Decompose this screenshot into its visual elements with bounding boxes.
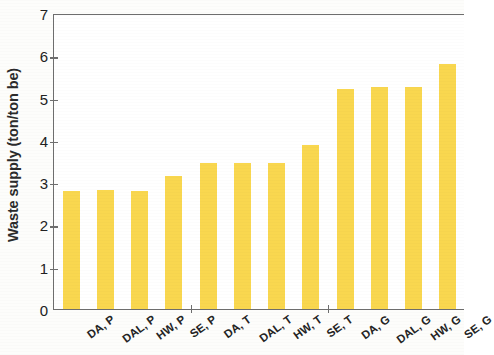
y-tick-label: 1: [26, 259, 48, 276]
bar: [200, 163, 217, 309]
bar: [371, 87, 388, 309]
y-tick-label: 2: [26, 217, 48, 234]
x-tick-label: SE, P: [187, 313, 218, 340]
x-axis-tick-labels: DA, PDAL, PHW, PSE, PDA, TDAL, THW, TSE,…: [0, 313, 464, 355]
x-tick-label: DA, T: [222, 313, 253, 340]
bar: [302, 145, 319, 309]
x-tick-label: SE, G: [462, 313, 494, 341]
y-tick-label: 7: [26, 6, 48, 23]
x-tick-label: DAL, G: [395, 313, 434, 346]
y-tick-label: 3: [26, 175, 48, 192]
x-tick-label: SE, T: [324, 313, 354, 340]
y-tick-mark: [50, 269, 58, 270]
y-axis-tick-labels: 76543210: [26, 0, 48, 355]
y-tick-mark: [50, 142, 58, 143]
y-tick-label: 6: [26, 48, 48, 65]
bar: [405, 87, 422, 309]
x-tick-label: HW, T: [291, 313, 324, 341]
bar: [97, 190, 114, 309]
bars-layer: [54, 15, 464, 309]
x-tick-label: DAL, P: [121, 313, 159, 345]
x-tick-label: DA, G: [359, 313, 392, 341]
y-tick-mark: [50, 100, 58, 101]
y-tick-mark: [50, 57, 58, 58]
y-tick-mark: [50, 184, 58, 185]
bar: [268, 163, 285, 309]
y-tick-label: 4: [26, 132, 48, 149]
bar: [165, 176, 182, 309]
x-tick-label: HW, G: [428, 313, 462, 343]
bar: [337, 89, 354, 309]
y-tick-mark: [50, 226, 58, 227]
x-tick-label: DAL, T: [257, 313, 294, 344]
x-tick-label: HW, P: [154, 313, 187, 342]
bar: [63, 191, 80, 309]
plot-area: [53, 14, 464, 310]
y-axis-title: Waste supply (ton/ton be): [2, 5, 24, 305]
bar: [439, 64, 456, 309]
x-tick-mark: [328, 305, 329, 313]
bar: [234, 163, 251, 309]
bar: [131, 191, 148, 309]
x-tick-label: DA, P: [85, 313, 117, 341]
y-tick-label: 5: [26, 90, 48, 107]
x-tick-mark: [191, 305, 192, 313]
